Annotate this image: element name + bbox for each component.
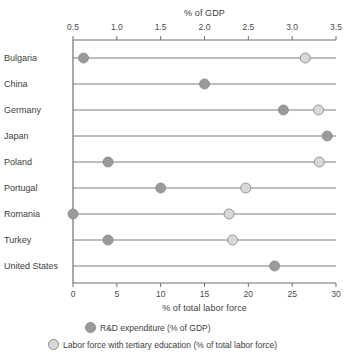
bottom-axis-tick-label: 5 (114, 289, 119, 299)
data-point-marker (103, 235, 113, 245)
plot-area (0, 0, 354, 358)
data-point-marker (79, 53, 89, 63)
legend-swatch-icon (48, 339, 59, 350)
data-point-marker (314, 157, 324, 167)
category-label-turkey: Turkey (4, 235, 31, 245)
bottom-axis-tick-label: 30 (331, 289, 340, 299)
category-label-japan: Japan (4, 131, 29, 141)
bottom-axis-tick-label: 10 (156, 289, 165, 299)
category-label-bulgaria: Bulgaria (4, 53, 37, 63)
category-label-united-states: United States (4, 261, 58, 271)
legend-label: R&D expenditure (% of GDP) (100, 323, 211, 333)
data-point-marker (313, 105, 323, 115)
bottom-axis-tick-label: 25 (287, 289, 296, 299)
top-axis-tick-label: 3.5 (330, 22, 342, 32)
data-point-marker (103, 157, 113, 167)
data-point-marker (322, 131, 332, 141)
data-point-marker (68, 209, 78, 219)
bottom-axis-tick-label: 15 (200, 289, 209, 299)
top-axis-tick-label: 3.0 (286, 22, 298, 32)
top-axis-tick-label: 0.5 (67, 22, 79, 32)
data-point-marker (270, 261, 280, 271)
data-point-marker (278, 105, 288, 115)
category-label-germany: Germany (4, 105, 41, 115)
data-point-marker (300, 53, 310, 63)
legend-label: Labor force with tertiary education (% o… (63, 340, 277, 350)
data-point-marker (156, 183, 166, 193)
data-point-marker (200, 79, 210, 89)
category-label-romania: Romania (4, 209, 40, 219)
dot-plot-chart: % of GDP % of total labor force 0.51.01.… (0, 0, 354, 358)
top-axis-tick-label: 2.5 (242, 22, 254, 32)
top-axis-tick-label: 2.0 (199, 22, 211, 32)
data-point-marker (228, 235, 238, 245)
legend-swatch-icon (85, 322, 96, 333)
category-label-portugal: Portugal (4, 183, 38, 193)
data-point-marker (224, 209, 234, 219)
legend-item-0[interactable]: R&D expenditure (% of GDP) (85, 322, 211, 333)
legend-item-1[interactable]: Labor force with tertiary education (% o… (48, 339, 277, 350)
data-point-marker (241, 183, 251, 193)
bottom-axis-tick-label: 20 (244, 289, 253, 299)
category-label-poland: Poland (4, 157, 32, 167)
category-label-china: China (4, 79, 28, 89)
top-axis-tick-label: 1.0 (111, 22, 123, 32)
top-axis-tick-label: 1.5 (155, 22, 167, 32)
bottom-axis-tick-label: 0 (71, 289, 76, 299)
